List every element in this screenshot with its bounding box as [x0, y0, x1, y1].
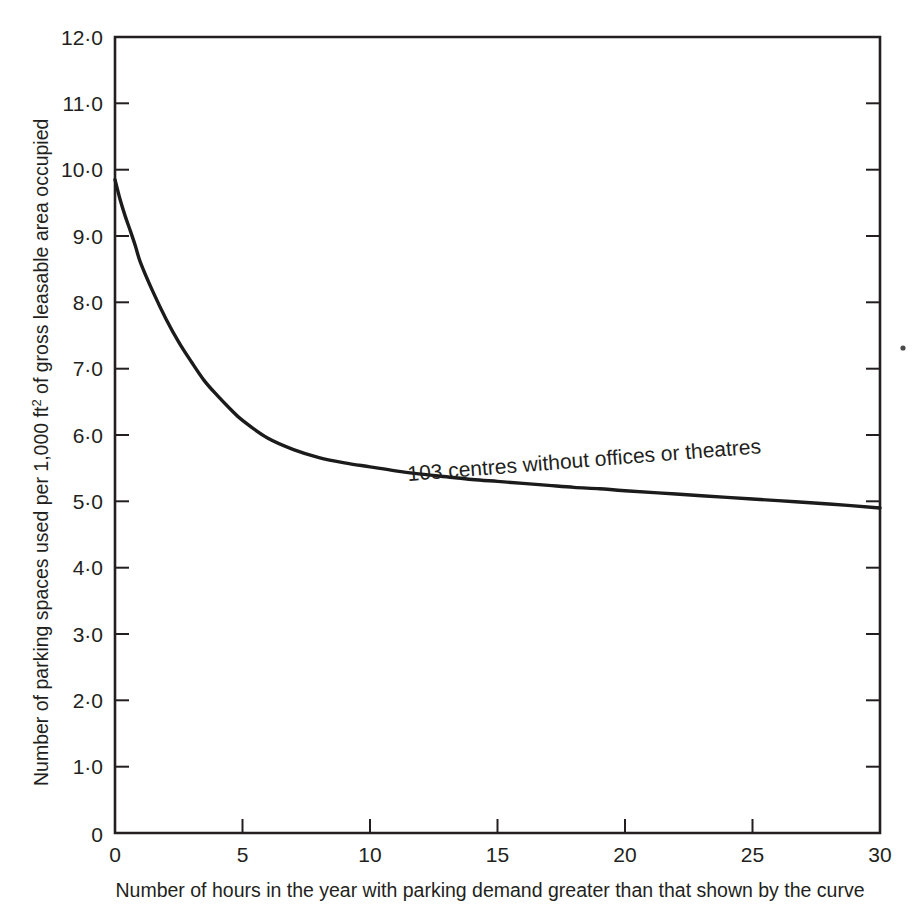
x-tick-labels: 0 5 10 15 20 25 30 [109, 843, 892, 866]
x-tick-label-10: 10 [358, 843, 381, 866]
y-tick-label-2: 2·0 [73, 689, 103, 712]
plot-frame [115, 37, 880, 833]
print-speck-mark [900, 345, 905, 350]
y-tick-label-12: 12·0 [61, 26, 103, 49]
y-tick-label-9: 9·0 [73, 225, 103, 248]
x-tick-label-0: 0 [109, 843, 121, 866]
y-tick-label-0: 0 [91, 823, 103, 846]
y-axis-title-after: of gross leasable area occupied [30, 119, 52, 400]
y-axis-title-before: Number of parking spaces used per 1,000 … [30, 406, 52, 786]
x-tick-label-20: 20 [613, 843, 636, 866]
x-tick-label-25: 25 [741, 843, 764, 866]
x-tick-label-5: 5 [237, 843, 249, 866]
y-tick-label-5: 5·0 [73, 490, 103, 513]
x-tick-label-15: 15 [486, 843, 509, 866]
series-annotation-label: 103 centres without offices or theatres [407, 434, 762, 485]
y-axis-title-superscript: 2 [29, 399, 44, 406]
y-axis-title: Number of parking spaces used per 1,000 … [29, 119, 52, 786]
x-tick-label-30: 30 [868, 843, 891, 866]
right-axis-ticks [866, 103, 880, 766]
x-axis-title: Number of hours in the year with parking… [116, 879, 865, 901]
y-tick-labels: 12·0 11·0 10·0 9·0 8·0 7·0 6·0 5·0 4·0 3… [61, 26, 103, 846]
y-tick-label-11: 11·0 [63, 92, 103, 115]
y-tick-label-10: 10·0 [61, 158, 103, 181]
parking-demand-duration-chart: 12·0 11·0 10·0 9·0 8·0 7·0 6·0 5·0 4·0 3… [0, 0, 920, 910]
y-tick-label-1: 1·0 [73, 755, 103, 778]
y-axis-ticks [115, 37, 129, 767]
y-tick-label-4: 4·0 [73, 556, 103, 579]
y-tick-label-6: 6·0 [73, 424, 103, 447]
y-tick-label-3: 3·0 [73, 623, 103, 646]
chart-figure: 12·0 11·0 10·0 9·0 8·0 7·0 6·0 5·0 4·0 3… [0, 0, 920, 910]
y-tick-label-8: 8·0 [73, 291, 103, 314]
x-axis-ticks [243, 819, 753, 833]
y-tick-label-7: 7·0 [73, 357, 103, 380]
